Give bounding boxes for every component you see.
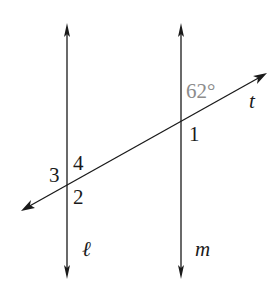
line-m-label: m — [195, 237, 210, 261]
angle-1-label: 1 — [189, 122, 200, 146]
angle-3-label: 3 — [49, 163, 60, 187]
transversal-t — [21, 73, 267, 211]
arrow-left-icon — [21, 200, 35, 211]
line-m — [178, 23, 184, 279]
arrow-right-icon — [253, 73, 267, 84]
line-t-label: t — [249, 89, 256, 113]
parallel-lines-diagram: 62° t ℓ m 1 2 3 4 — [0, 0, 280, 285]
line-l — [64, 23, 70, 279]
given-angle-label: 62° — [186, 79, 215, 103]
line-l-label: ℓ — [82, 237, 91, 261]
angle-4-label: 4 — [73, 151, 84, 175]
angle-2-label: 2 — [73, 185, 84, 209]
